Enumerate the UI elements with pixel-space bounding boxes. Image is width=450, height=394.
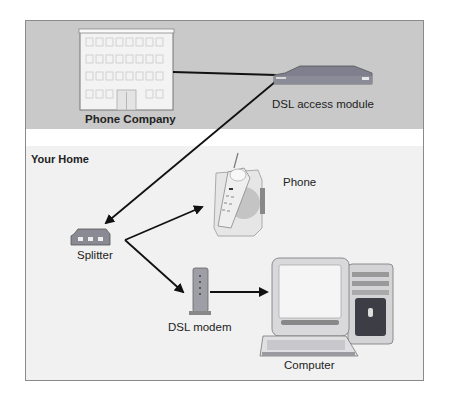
diagram-graphics xyxy=(0,0,450,394)
phone-label: Phone xyxy=(283,176,316,188)
computer-label: Computer xyxy=(284,359,335,371)
phone-company-label: Phone Company xyxy=(85,113,176,125)
building-icon xyxy=(79,29,174,110)
your-home-label: Your Home xyxy=(31,153,89,165)
dsl-access-module-label: DSL access module xyxy=(272,98,374,110)
dsl-modem-label: DSL modem xyxy=(168,321,232,333)
splitter-label: Splitter xyxy=(77,249,113,261)
splitter-icon xyxy=(71,229,110,245)
dslam-icon xyxy=(274,66,372,84)
modem-icon xyxy=(189,268,211,315)
desktop-computer-icon xyxy=(260,258,393,356)
cordless-phone-icon xyxy=(214,153,265,236)
